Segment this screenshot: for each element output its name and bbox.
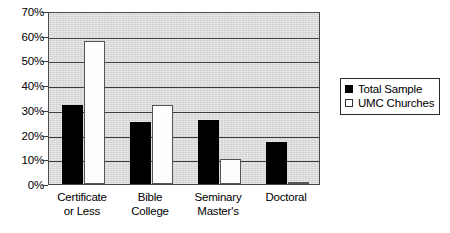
bar-chart: 0%10%20%30%40%50%60%70% Certificateor Le…	[0, 0, 450, 233]
x-axis-label-line: or Less	[48, 204, 116, 218]
bar	[152, 105, 173, 184]
bar	[220, 159, 241, 184]
legend-label: UMC Churches	[358, 97, 434, 110]
x-axis-label-line: Master's	[184, 204, 252, 218]
y-axis-tick-label: 0%	[0, 179, 44, 191]
x-axis-label-line: Certificate	[48, 190, 116, 204]
bar	[266, 142, 287, 184]
x-axis-label-line: Bible	[116, 190, 184, 204]
x-axis-label-line: College	[116, 204, 184, 218]
bar	[62, 105, 83, 184]
y-axis-tick-mark	[42, 61, 48, 62]
y-axis-tick-label: 60%	[0, 31, 44, 43]
y-axis-tick-label: 50%	[0, 55, 44, 67]
y-axis-tick-label: 30%	[0, 105, 44, 117]
legend-label: Total Sample	[358, 83, 422, 96]
x-axis-category-label: SeminaryMaster's	[184, 190, 252, 218]
y-axis-tick-mark	[42, 185, 48, 186]
plot-area	[48, 12, 320, 185]
x-axis-label-line: Doctoral	[252, 190, 320, 204]
bar	[288, 182, 309, 184]
bar	[198, 120, 219, 184]
y-axis-tick-label: 20%	[0, 130, 44, 142]
bar	[84, 41, 105, 184]
bar	[130, 122, 151, 184]
legend-item-total-sample: Total Sample	[345, 82, 434, 96]
y-axis-tick-mark	[42, 111, 48, 112]
y-axis-tick-mark	[42, 160, 48, 161]
bars	[49, 13, 319, 184]
y-axis-tick-mark	[42, 136, 48, 137]
y-axis: 0%10%20%30%40%50%60%70%	[0, 0, 44, 233]
legend-item-umc-churches: UMC Churches	[345, 96, 434, 110]
x-axis-label-line: Seminary	[184, 190, 252, 204]
y-axis-tick-mark	[42, 86, 48, 87]
legend-swatch-open-square-icon	[345, 99, 353, 107]
legend-swatch-filled-square-icon	[345, 85, 353, 93]
y-axis-tick-mark	[42, 37, 48, 38]
y-axis-tick-mark	[42, 12, 48, 13]
legend: Total Sample UMC Churches	[340, 78, 440, 115]
x-axis: Certificateor LessBibleCollegeSeminaryMa…	[48, 190, 320, 230]
x-axis-category-label: BibleCollege	[116, 190, 184, 218]
y-axis-tick-label: 40%	[0, 80, 44, 92]
x-axis-category-label: Doctoral	[252, 190, 320, 204]
x-axis-category-label: Certificateor Less	[48, 190, 116, 218]
y-axis-tick-label: 70%	[0, 6, 44, 18]
y-axis-tick-label: 10%	[0, 154, 44, 166]
